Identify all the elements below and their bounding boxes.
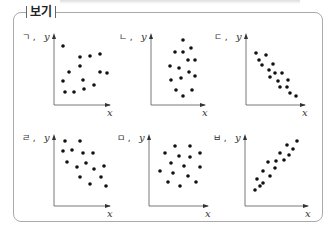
data-point xyxy=(188,144,192,148)
data-point xyxy=(182,164,186,168)
data-point xyxy=(288,91,292,95)
y-axis-label: y xyxy=(234,132,241,143)
data-point xyxy=(61,44,65,48)
data-point xyxy=(295,139,299,143)
data-point xyxy=(91,151,95,155)
data-point xyxy=(286,78,290,82)
data-point xyxy=(63,90,67,94)
data-point xyxy=(173,144,177,148)
data-point xyxy=(267,68,271,72)
data-point xyxy=(78,64,82,68)
data-point xyxy=(254,51,258,55)
data-point xyxy=(88,54,92,58)
plot-caption: ㄷ , xyxy=(214,32,228,42)
y-axis-label: y xyxy=(140,31,147,42)
arrow-icon xyxy=(149,33,153,39)
scatter-plots: ㄱ ,yxㄴ ,yxㄷ ,yxㄹ ,yxㅁ ,yxㅂ ,yx xyxy=(0,0,331,230)
arrow-icon xyxy=(147,134,151,140)
x-axis-label: x xyxy=(107,208,113,219)
data-point xyxy=(105,71,109,75)
data-point xyxy=(198,151,202,155)
data-point xyxy=(177,66,181,70)
plot-caption: ㄱ , xyxy=(22,32,36,42)
data-point xyxy=(181,38,185,42)
data-point xyxy=(285,85,289,89)
data-point xyxy=(92,167,96,171)
data-point xyxy=(72,90,76,94)
data-point xyxy=(63,139,67,143)
data-point xyxy=(104,184,108,188)
data-point xyxy=(168,64,172,68)
data-point xyxy=(261,169,265,173)
plot-caption: ㅂ , xyxy=(213,133,227,143)
data-point xyxy=(92,83,96,87)
plot-caption: ㄴ , xyxy=(119,32,133,42)
data-point xyxy=(98,52,102,56)
data-point xyxy=(177,154,181,158)
x-axis-label: x xyxy=(302,107,308,118)
data-point xyxy=(276,79,280,83)
data-point xyxy=(274,159,278,163)
data-point xyxy=(187,70,191,74)
data-point xyxy=(193,58,197,62)
data-point xyxy=(294,94,298,98)
data-point xyxy=(158,169,162,173)
data-point xyxy=(253,188,257,192)
data-point xyxy=(75,165,79,169)
data-point xyxy=(278,151,282,155)
data-point xyxy=(273,166,277,170)
data-point xyxy=(189,46,193,50)
data-point xyxy=(193,74,197,78)
data-point xyxy=(166,180,170,184)
data-point xyxy=(169,161,173,165)
data-point xyxy=(273,71,277,75)
data-point xyxy=(181,94,185,98)
data-point xyxy=(179,76,183,80)
data-point xyxy=(186,174,190,178)
data-point xyxy=(78,55,82,59)
y-axis-label: y xyxy=(43,31,50,42)
data-point xyxy=(178,184,182,188)
data-point xyxy=(65,160,69,164)
data-point xyxy=(102,164,106,168)
data-point xyxy=(171,171,175,175)
data-point xyxy=(264,53,268,57)
data-point xyxy=(174,88,178,92)
data-point xyxy=(266,160,270,164)
data-point xyxy=(268,174,272,178)
data-point xyxy=(61,149,65,153)
data-point xyxy=(99,175,103,179)
arrow-icon xyxy=(243,134,247,140)
data-point xyxy=(280,71,284,75)
x-axis-label: x xyxy=(107,107,113,118)
data-point xyxy=(194,180,198,184)
y-axis-label: y xyxy=(138,132,145,143)
data-point xyxy=(291,147,295,151)
data-point xyxy=(271,62,275,66)
data-point xyxy=(198,165,202,169)
data-point xyxy=(186,58,190,62)
data-point xyxy=(282,158,286,162)
plot-caption: ㅁ , xyxy=(117,133,131,143)
data-point xyxy=(67,70,71,74)
data-point xyxy=(190,88,194,92)
plot-caption: ㄹ , xyxy=(22,133,36,143)
data-point xyxy=(181,50,185,54)
data-point xyxy=(285,143,289,147)
data-point xyxy=(169,78,173,82)
data-point xyxy=(78,139,82,143)
data-point xyxy=(81,78,85,82)
data-point xyxy=(255,177,259,181)
data-point xyxy=(61,79,65,83)
data-point xyxy=(98,70,102,74)
data-point xyxy=(268,75,272,79)
data-point xyxy=(260,63,264,67)
x-axis-label: x xyxy=(202,107,208,118)
data-point xyxy=(163,151,167,155)
data-point xyxy=(287,153,291,157)
x-axis-label: x xyxy=(205,208,211,219)
data-point xyxy=(278,85,282,89)
data-point xyxy=(261,181,265,185)
data-point xyxy=(81,151,85,155)
data-point xyxy=(70,148,74,152)
